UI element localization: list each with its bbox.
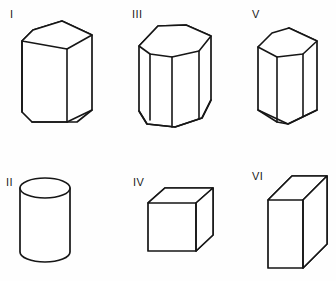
figure-board: I II III IV V VI	[0, 0, 336, 281]
solid-cylinder	[20, 178, 70, 262]
cylinder-body	[20, 188, 70, 262]
solid-rectangular-prism	[268, 176, 327, 268]
figure-label-ii: II	[6, 177, 13, 188]
solid-hexagonal-prism	[258, 28, 317, 124]
solid-pentagonal-prism	[22, 21, 92, 122]
figure-label-iv: IV	[133, 177, 144, 188]
figure-label-vi: VI	[252, 171, 263, 182]
figure-label-iii: III	[132, 9, 142, 20]
figure-label-i: I	[10, 9, 13, 20]
solid-cube	[148, 188, 213, 251]
figure-label-v: V	[252, 9, 260, 20]
solid-octagonal-prism	[139, 25, 211, 127]
solids-illustration	[0, 0, 336, 281]
cylinder-top-face	[20, 178, 70, 198]
